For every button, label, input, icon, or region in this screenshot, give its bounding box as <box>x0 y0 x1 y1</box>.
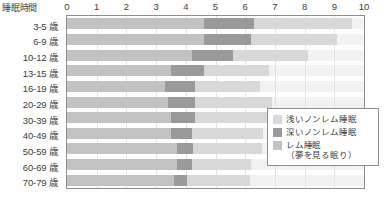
y-tick-2: 10-12 歳 <box>23 50 59 64</box>
bar-segment <box>168 97 195 108</box>
x-tick-3: 3 <box>153 1 158 12</box>
legend-label: 浅いノンレム睡眠 <box>286 114 356 124</box>
bar-segment <box>195 112 269 123</box>
bar-segment <box>171 128 192 139</box>
bar-segment <box>67 18 204 29</box>
bar-segment <box>67 128 171 139</box>
bar-segment <box>67 97 168 108</box>
bar-segment <box>67 65 171 76</box>
bar-segment <box>195 81 260 92</box>
bar-segment <box>67 50 192 61</box>
y-tick-1: 6-9 歳 <box>33 34 59 48</box>
legend-sublabel: （夢を見る眠り） <box>286 150 356 160</box>
bar-segment <box>67 112 171 123</box>
bar-segment <box>192 159 251 170</box>
x-tick-0: 0 <box>64 1 69 12</box>
bar-segment <box>177 159 192 170</box>
bar-segment <box>177 143 193 154</box>
x-tick-5: 5 <box>213 1 218 12</box>
y-tick-5: 20-29 歳 <box>23 97 59 111</box>
bar-segment <box>233 50 307 61</box>
legend-item-2[interactable]: レム睡眠（夢を見る眠り） <box>273 140 374 160</box>
legend-label: 深いノンレム睡眠 <box>286 127 356 137</box>
bar-segment <box>67 34 204 45</box>
x-tick-1: 1 <box>94 1 99 12</box>
x-tick-6: 6 <box>243 1 248 12</box>
x-tick-4: 4 <box>183 1 188 12</box>
x-axis-tick-labels: 012345678910 <box>0 0 386 15</box>
bar-segment <box>174 175 187 186</box>
bar-segment <box>192 128 263 139</box>
sleep-time-chart: 睡眠時間 012345678910 3-5 歳6-9 歳10-12 歳13-15… <box>0 0 386 208</box>
bar-row <box>67 97 364 108</box>
y-tick-10: 70-79 歳 <box>23 175 59 189</box>
bar-segment <box>251 34 337 45</box>
y-tick-9: 60-69 歳 <box>23 160 59 174</box>
bar-segment <box>192 50 234 61</box>
y-tick-0: 3-5 歳 <box>33 19 59 33</box>
x-tick-10: 10 <box>359 1 370 12</box>
bar-segment <box>165 81 195 92</box>
bar-row <box>67 34 364 45</box>
legend-swatch-icon <box>273 141 282 150</box>
y-tick-4: 16-19 歳 <box>23 81 59 95</box>
bar-segment <box>67 175 174 186</box>
bar-row <box>67 50 364 61</box>
bar-segment <box>67 143 177 154</box>
x-tick-9: 9 <box>332 1 337 12</box>
y-tick-6: 30-39 歳 <box>23 113 59 127</box>
legend-swatch-icon <box>273 115 282 124</box>
y-tick-7: 40-49 歳 <box>23 128 59 142</box>
legend-label: レム睡眠 <box>286 140 356 150</box>
y-tick-3: 13-15 歳 <box>23 66 59 80</box>
bar-segment <box>193 143 261 154</box>
legend-swatch-icon <box>273 128 282 137</box>
bar-row <box>67 175 364 186</box>
legend-item-0[interactable]: 浅いノンレム睡眠 <box>273 114 374 124</box>
bar-segment <box>254 18 352 29</box>
x-tick-8: 8 <box>302 1 307 12</box>
bar-segment <box>67 81 165 92</box>
legend: 浅いノンレム睡眠深いノンレム睡眠レム睡眠（夢を見る眠り） <box>267 108 379 166</box>
bar-row <box>67 81 364 92</box>
bar-segment <box>187 175 249 186</box>
bar-segment <box>204 34 252 45</box>
legend-item-1[interactable]: 深いノンレム睡眠 <box>273 127 374 137</box>
bar-segment <box>171 65 204 76</box>
bar-row <box>67 65 364 76</box>
bar-segment <box>195 97 272 108</box>
x-tick-2: 2 <box>124 1 129 12</box>
bar-segment <box>204 18 254 29</box>
bar-segment <box>204 65 269 76</box>
x-tick-7: 7 <box>272 1 277 12</box>
y-tick-8: 50-59 歳 <box>23 144 59 158</box>
bar-segment <box>67 159 177 170</box>
bar-segment <box>171 112 195 123</box>
bar-row <box>67 18 364 29</box>
